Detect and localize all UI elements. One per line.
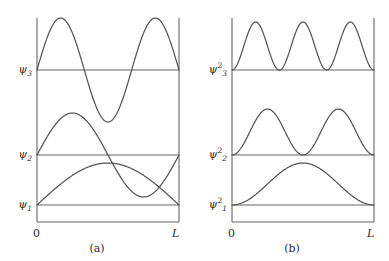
y-label-psi1: ψ1 [6, 199, 32, 213]
y-label-psi2-squared: ψ22 [199, 147, 227, 162]
panel-b-plot [195, 0, 389, 261]
y-label-psi1-text: ψ1 [19, 198, 32, 211]
curve-ψ1² [232, 163, 374, 205]
panel-a-plot [0, 0, 194, 261]
curve-ψ3² [232, 22, 374, 70]
y-label-psi2-squared-text: ψ22 [209, 148, 227, 161]
y-label-psi3-squared-text: ψ23 [209, 63, 227, 76]
y-label-psi1-squared: ψ21 [199, 197, 227, 212]
x-tick-end-a: L [172, 228, 179, 239]
curve-ψ1 [37, 163, 179, 205]
y-label-psi2-text: ψ2 [19, 148, 32, 161]
y-label-psi2: ψ2 [6, 149, 32, 163]
caption-a: (a) [0, 243, 194, 254]
caption-b: (b) [195, 243, 389, 254]
curve-ψ2² [232, 109, 374, 155]
panel-b: ψ23 ψ22 ψ21 0 L (b) [195, 0, 389, 261]
y-label-psi3-text: ψ3 [19, 63, 32, 76]
x-tick-start-a: 0 [33, 228, 40, 239]
x-tick-end-b: L [367, 228, 374, 239]
y-label-psi1-squared-text: ψ21 [209, 198, 227, 211]
y-label-psi3: ψ3 [6, 64, 32, 78]
x-tick-start-b: 0 [228, 228, 235, 239]
panel-a: ψ3 ψ2 ψ1 0 L (a) [0, 0, 194, 261]
physics-figure: ψ3 ψ2 ψ1 0 L (a) ψ23 ψ22 ψ21 0 L (b) [0, 0, 389, 261]
y-label-psi3-squared: ψ23 [199, 62, 227, 77]
